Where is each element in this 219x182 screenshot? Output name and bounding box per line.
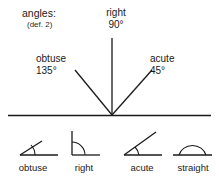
straight-icon [173,145,212,155]
acute-icon-label: acute [118,163,166,174]
icon-row [20,131,212,155]
obtuse-angle-label: obtuse [36,53,84,64]
right-angle-label: right [95,7,137,18]
obtuse-ray [75,70,112,115]
angles-figure: angles: (def. 2) right 90° obtuse 135° a… [0,0,219,182]
main-diagram [8,38,211,116]
right-icon [72,131,100,155]
right-icon-arc [72,142,85,155]
acute-icon-arc [135,147,139,155]
acute-ray [112,70,152,115]
obtuse-angle-value: 135° [36,65,84,76]
obtuse-icon-label: obtuse [5,163,61,174]
figure-title: angles: [22,8,56,20]
acute-angle-value: 45° [150,65,194,76]
straight-icon-label: straight [168,163,218,174]
figure-subtitle: (def. 2) [27,21,52,30]
right-angle-value: 90° [95,19,137,30]
straight-icon-arc [179,145,206,155]
obtuse-icon [20,141,58,155]
acute-icon [124,132,162,155]
acute-angle-label: acute [150,53,194,64]
right-icon-label: right [62,163,106,174]
acute-icon-ray [124,132,156,155]
obtuse-icon-ray [20,141,42,155]
